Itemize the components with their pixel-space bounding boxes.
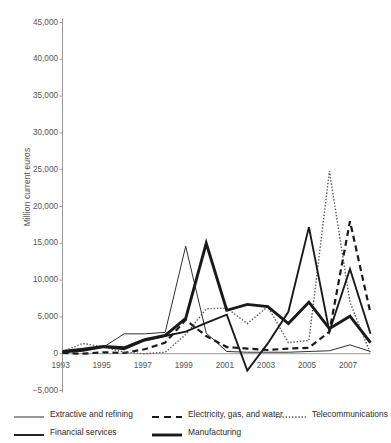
legend-swatch-medium-solid-icon bbox=[14, 431, 44, 439]
chart-legend: Extractive and refiningElectricity, gas,… bbox=[0, 400, 391, 443]
legend-swatch-thin-solid-icon bbox=[14, 413, 44, 421]
legend-label: Telecommunications bbox=[312, 409, 388, 419]
legend-label: Extractive and refining bbox=[50, 409, 133, 419]
legend-label: Manufacturing bbox=[188, 427, 241, 437]
legend-swatch-dashed-icon bbox=[152, 413, 182, 421]
legend-label: Electricity, gas, and water bbox=[188, 409, 283, 419]
legend-swatch-dotted-icon bbox=[276, 413, 306, 421]
series-line-1 bbox=[63, 221, 371, 353]
legend-swatch-thick-solid-icon bbox=[152, 431, 182, 439]
series-line-2 bbox=[63, 171, 371, 354]
chart-container: Million current euros 45,00040,00035,000… bbox=[0, 0, 391, 443]
series-line-3 bbox=[63, 227, 371, 371]
series-line-4 bbox=[63, 243, 371, 351]
plot-area bbox=[0, 0, 391, 400]
legend-label: Financial services bbox=[50, 427, 117, 437]
